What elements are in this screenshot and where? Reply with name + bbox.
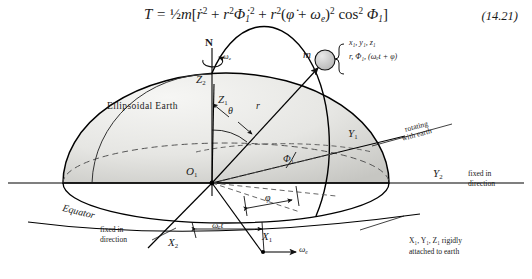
label-y1-axis: Y1 bbox=[348, 128, 358, 140]
label-x2-axis: X2 bbox=[168, 237, 178, 249]
label-coordinates-cartesian: x₁, y₁, z₁ bbox=[349, 39, 376, 47]
label-coordinates-spherical: r, Φ₁, (ωₑt + φ) bbox=[349, 53, 397, 61]
label-mass-m: m bbox=[303, 49, 311, 61]
label-ellipsoidal-earth: Ellipsoidal Earth bbox=[107, 102, 178, 112]
mass-particle bbox=[315, 50, 335, 70]
phi-tick-left bbox=[244, 196, 247, 216]
label-angle-phi: φ bbox=[265, 193, 271, 204]
label-fixed-direction-left-line1: fixed in bbox=[100, 226, 123, 234]
earth-ellipsoid-body bbox=[63, 73, 389, 183]
coordinate-brace bbox=[335, 44, 344, 74]
label-y2-axis: Y2 bbox=[433, 168, 443, 180]
label-z1-axis: Z1 bbox=[218, 94, 228, 106]
label-origin-o1: O1 bbox=[186, 166, 197, 178]
rigid-note-leader bbox=[360, 216, 404, 230]
origin-point bbox=[210, 181, 215, 186]
label-north-pole: N bbox=[205, 37, 213, 49]
label-angle-phi1: Φ1 bbox=[283, 154, 294, 165]
label-rigid-attachment-line2: attached to earth bbox=[409, 248, 459, 256]
axis-x2-fixed bbox=[148, 183, 212, 248]
label-fixed-direction-right-line2: direction bbox=[468, 180, 495, 188]
omega-e-t-tick-left bbox=[192, 222, 196, 238]
label-omega-e-arrow: ωe bbox=[299, 245, 308, 255]
label-x1-axis: X1 bbox=[262, 231, 272, 243]
label-omega-spin: ωe bbox=[223, 53, 231, 62]
phi-tick-right bbox=[296, 186, 299, 206]
label-angle-theta: θ bbox=[228, 106, 233, 117]
label-fixed-direction-right-line1: fixed in bbox=[468, 170, 491, 178]
x1-base-point bbox=[261, 250, 265, 254]
label-radius-r: r bbox=[256, 101, 260, 112]
label-fixed-direction-left-line2: direction bbox=[100, 236, 127, 244]
label-omega-e-t: ωₑt bbox=[212, 221, 223, 230]
axis-x1-rotating bbox=[212, 183, 262, 252]
label-z2-axis: Z2 bbox=[196, 74, 206, 86]
label-rigid-attachment-line1: X₁, Y₁, Z₁ rigidly bbox=[409, 237, 462, 245]
